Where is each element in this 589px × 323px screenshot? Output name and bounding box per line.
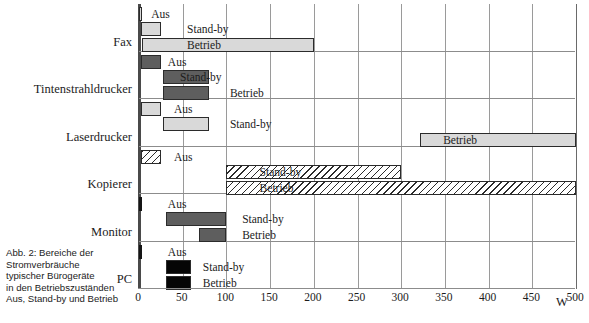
caption-line-3: typischer Bürogeräte: [6, 270, 132, 282]
state-label-kopierer-betrieb: Betrieb: [260, 182, 294, 194]
state-label-kopierer-stand-by: Stand-by: [260, 166, 302, 178]
state-label-monitor-aus: Aus: [168, 198, 187, 210]
x-tick-100: 100: [217, 291, 234, 303]
bar-laserdrucker-aus: [141, 102, 161, 116]
bar-kopierer-stand-by: [226, 165, 401, 179]
category-label-laserdrucker: Laserdrucker: [2, 130, 132, 145]
x-tick-350: 350: [435, 291, 452, 303]
state-label-laserdrucker-aus: Aus: [174, 103, 193, 115]
state-label-monitor-stand-by: Stand-by: [242, 213, 284, 225]
state-label-fax-betrieb: Betrieb: [187, 39, 221, 51]
category-label-tintenstrahldrucker: Tintenstrahldrucker: [2, 82, 132, 97]
caption-line-5: Aus, Stand-by und Betrieb: [6, 293, 132, 305]
gridline-300: [401, 4, 402, 289]
caption-line-2: Stromverbräuche: [6, 259, 132, 271]
x-axis-unit-label: W: [556, 295, 568, 310]
figure-container: AusStand-byBetriebAusStand-byBetriebAusS…: [0, 0, 589, 323]
x-tick-50: 50: [176, 291, 188, 303]
x-tick-500: 500: [566, 291, 583, 303]
state-label-tintenstrahldrucker-betrieb: Betrieb: [230, 87, 264, 99]
x-tick-450: 450: [523, 291, 540, 303]
bar-monitor-aus: [139, 197, 142, 211]
x-tick-150: 150: [260, 291, 277, 303]
bar-pc-stand-by: [166, 260, 191, 274]
state-label-fax-stand-by: Stand-by: [187, 23, 229, 35]
bar-kopierer-aus: [141, 150, 161, 164]
bar-tintenstrahldrucker-betrieb: [163, 86, 208, 100]
x-tick-0: 0: [135, 291, 141, 303]
figure-caption: Abb. 2: Bereiche derStromverbräuchetypis…: [6, 247, 132, 305]
category-label-monitor: Monitor: [2, 225, 132, 240]
state-label-tintenstrahldrucker-stand-by: Stand-by: [180, 71, 222, 83]
gridline-250: [358, 4, 359, 289]
gridline-500: [576, 4, 577, 289]
state-label-kopierer-aus: Aus: [174, 151, 193, 163]
bar-fax-betrieb: [142, 38, 314, 52]
state-label-monitor-betrieb: Betrieb: [242, 229, 276, 241]
x-tick-300: 300: [392, 291, 409, 303]
state-label-pc-betrieb: Betrieb: [203, 277, 237, 289]
x-tick-200: 200: [304, 291, 321, 303]
bar-monitor-betrieb: [199, 228, 226, 242]
bar-laserdrucker-stand-by: [163, 117, 208, 131]
x-tick-400: 400: [479, 291, 496, 303]
x-tick-250: 250: [348, 291, 365, 303]
category-label-kopierer: Kopierer: [2, 177, 132, 192]
category-label-fax: Fax: [2, 35, 132, 50]
state-label-pc-aus: Aus: [168, 246, 187, 258]
gridline-200: [314, 4, 315, 289]
bar-tintenstrahldrucker-aus: [141, 55, 161, 69]
plot-area: AusStand-byBetriebAusStand-byBetriebAusS…: [138, 4, 575, 289]
bar-fax-aus: [139, 7, 142, 21]
bar-fax-stand-by: [141, 22, 161, 36]
state-label-fax-aus: Aus: [151, 8, 170, 20]
state-label-tintenstrahldrucker-aus: Aus: [168, 56, 187, 68]
state-label-pc-stand-by: Stand-by: [203, 261, 245, 273]
state-label-laserdrucker-betrieb: Betrieb: [443, 134, 477, 146]
bar-monitor-stand-by: [166, 212, 226, 226]
state-label-laserdrucker-stand-by: Stand-by: [230, 118, 272, 130]
x-axis-line: [138, 288, 575, 289]
caption-line-1: Abb. 2: Bereiche der: [6, 247, 132, 259]
caption-line-4: in den Betriebszuständen: [6, 282, 132, 294]
bar-pc-aus: [139, 245, 142, 259]
